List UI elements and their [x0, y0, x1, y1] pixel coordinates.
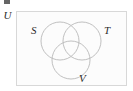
universe-rectangle [17, 12, 127, 86]
set-label-s: S [31, 25, 37, 36]
venn-diagram-canvas [0, 0, 133, 91]
set-label-v: V [79, 73, 86, 84]
venn-diagram-figure: U S T V [0, 0, 133, 91]
set-label-t: T [104, 25, 110, 36]
